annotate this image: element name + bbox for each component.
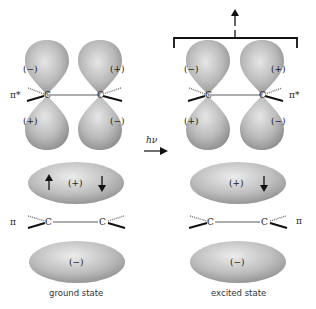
caption-ground-state: ground state (49, 288, 103, 298)
pi-star-label-excited: π* (289, 90, 300, 100)
pi-sign-top-excited: (+) (229, 178, 244, 188)
atom-c-left: C (207, 217, 214, 227)
excited-state-pi-star: C C π* (−) (+) (+) (−) (174, 9, 300, 150)
atom-c-right: C (261, 217, 268, 227)
transition-arrow-icon (160, 147, 168, 155)
caption-excited-state: excited state (211, 288, 266, 298)
mo-diagram: C C π* (−) (+) (+) (−) (+) C C π (−) gro… (0, 0, 316, 309)
sign-right-bottom: (−) (271, 116, 286, 126)
sign-right-top: (+) (271, 64, 286, 74)
atom-c-right: C (99, 217, 106, 227)
pi-label-ground: π (10, 217, 16, 227)
atom-c-right: C (259, 90, 266, 100)
sign-left-bottom: (+) (23, 116, 38, 126)
sign-left-bottom: (+) (184, 116, 199, 126)
hv-label: hν (146, 135, 158, 145)
sign-left-top: (−) (184, 64, 199, 74)
sign-left-top: (−) (23, 64, 38, 74)
photon-transition: hν (144, 135, 168, 155)
atom-c-left: C (205, 90, 212, 100)
pi-star-label-ground: π* (10, 90, 21, 100)
sign-right-top: (+) (110, 64, 125, 74)
atom-c-left: C (45, 217, 52, 227)
ground-state-pi: (+) C C π (−) (10, 162, 125, 283)
ground-state-pi-star: C C π* (−) (+) (+) (−) (10, 40, 125, 150)
excited-state-pi: (+) C C π (−) (189, 162, 302, 283)
sign-right-bottom: (−) (110, 116, 125, 126)
pi-sign-bottom-ground: (−) (69, 257, 84, 267)
atom-c-right: C (97, 90, 104, 100)
electron-up-arrow-icon (231, 9, 239, 16)
atom-c-left: C (44, 90, 51, 100)
pi-sign-bottom-excited: (−) (230, 257, 245, 267)
pi-star-electron-bracket (174, 9, 297, 48)
pi-label-excited: π (296, 216, 302, 226)
pi-sign-top-ground: (+) (68, 178, 83, 188)
